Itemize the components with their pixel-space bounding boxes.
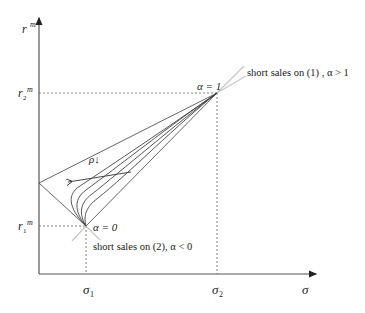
svg-text:m: m [27,85,33,94]
y-axis-label: r m [22,20,36,36]
short-sales-1-label: short sales on (1) , α > 1 [247,67,349,79]
axes [39,18,316,274]
frontier-bounds [39,93,217,226]
svg-text:1: 1 [90,290,94,299]
extension-alpha-lt-0-a [72,226,86,241]
svg-text:2: 2 [219,290,223,299]
svg-text:m: m [27,218,33,227]
frontier-curve-3 [81,93,217,226]
x-axis-label: σ [302,282,309,297]
upper-bound-line [39,93,217,183]
rho-label: ρ↓ [88,153,100,165]
alpha-1-label: α = 1 [197,80,221,92]
svg-text:2: 2 [23,94,27,102]
y-tick-r2: r 2 m [18,85,33,102]
short-sales-2-label: short sales on (2), α < 0 [93,241,192,253]
x-tick-sigma1: σ 1 [83,282,94,299]
x-tick-sigma2: σ 2 [212,282,223,299]
svg-text:r: r [22,22,27,36]
rho-one-line [86,93,217,226]
lower-bound-line [39,183,86,226]
svg-text:m: m [30,20,36,29]
svg-text:σ: σ [212,282,219,297]
frontier-diagram: ρ↓ r m r 2 m r 1 m σ 1 σ 2 σ α = 1 α = 0… [0,0,365,313]
alpha-0-label: α = 0 [93,221,118,233]
svg-text:1: 1 [23,227,27,235]
y-tick-r1: r 1 m [18,218,33,235]
svg-text:σ: σ [83,282,90,297]
